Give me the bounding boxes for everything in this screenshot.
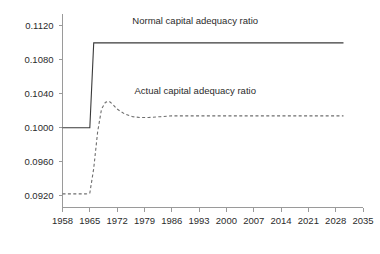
x-tick-label: 2028 xyxy=(325,215,346,226)
y-tick-label: 0.1000 xyxy=(24,122,53,133)
x-tick-label: 1986 xyxy=(161,215,182,226)
x-tick-label: 1958 xyxy=(52,215,73,226)
x-tick-label: 2007 xyxy=(243,215,264,226)
y-tick-label: 0.1080 xyxy=(24,54,53,65)
x-tick-label: 2000 xyxy=(216,215,237,226)
annotation-actual-capital-adequacy-ratio: Actual capital adequacy ratio xyxy=(134,85,255,96)
x-tick-label: 2021 xyxy=(298,215,319,226)
x-tick-label: 2014 xyxy=(270,215,291,226)
x-tick-label: 1972 xyxy=(107,215,128,226)
x-tick-label: 1979 xyxy=(134,215,155,226)
y-tick-label: 0.0920 xyxy=(24,190,53,201)
y-tick-label: 0.1040 xyxy=(24,88,53,99)
x-tick-label: 2035 xyxy=(352,215,373,226)
x-tick-label: 1965 xyxy=(79,215,100,226)
chart-canvas: 0.09200.09600.10000.10400.10800.1120 195… xyxy=(0,0,380,254)
y-tick-label: 0.0960 xyxy=(24,156,53,167)
x-tick-label: 1993 xyxy=(189,215,210,226)
capital-adequacy-ratio-chart: 0.09200.09600.10000.10400.10800.1120 195… xyxy=(0,0,380,254)
y-tick-label: 0.1120 xyxy=(25,20,53,31)
annotation-normal-capital-adequacy-ratio: Normal capital adequacy ratio xyxy=(132,15,258,26)
